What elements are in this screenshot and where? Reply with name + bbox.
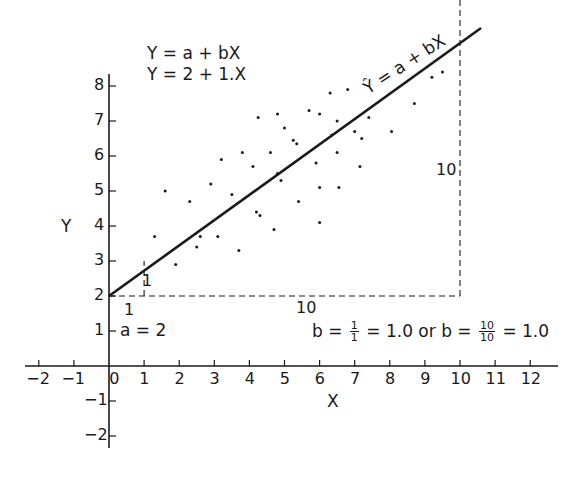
data-point <box>153 235 156 238</box>
data-point <box>174 263 177 266</box>
x-tick-label: 5 <box>280 371 290 387</box>
y-tick-label: 5 <box>94 182 104 198</box>
data-point <box>297 200 300 203</box>
scatter-points <box>153 71 444 267</box>
data-point <box>337 186 340 189</box>
large-rise-label: 10 <box>436 162 456 178</box>
data-point <box>199 235 202 238</box>
x-tick-label: 6 <box>315 371 325 387</box>
data-point <box>188 200 191 203</box>
x-tick-label: 10 <box>451 371 471 387</box>
y-tick-label: 6 <box>94 147 104 163</box>
x-axis-label: X <box>327 393 339 410</box>
y-tick-label: 3 <box>94 252 104 268</box>
x-tick-label: 11 <box>486 371 506 387</box>
data-point <box>358 165 361 168</box>
x-tick-label: 2 <box>174 371 184 387</box>
slope-fraction-1: 1 1 <box>350 320 359 343</box>
data-point <box>346 88 349 91</box>
x-tick-label: −2 <box>26 371 50 387</box>
data-point <box>164 190 167 193</box>
data-point <box>413 102 416 105</box>
intercept-label: a = 2 <box>120 322 166 339</box>
data-point <box>329 92 332 95</box>
data-point <box>292 139 295 142</box>
fraction-2-denominator: 10 <box>479 332 495 343</box>
fraction-1-denominator: 1 <box>350 332 359 343</box>
data-point <box>318 113 321 116</box>
y-tick-label: 8 <box>94 77 104 93</box>
y-tick-label: 2 <box>94 287 104 303</box>
data-point <box>220 158 223 161</box>
data-point <box>255 211 258 214</box>
x-tick-label: 0 <box>109 371 119 387</box>
data-point <box>360 137 363 140</box>
x-tick-label: 1 <box>139 371 149 387</box>
data-point <box>269 151 272 154</box>
x-tick-label: −1 <box>61 371 85 387</box>
data-point <box>257 116 260 119</box>
data-point <box>279 179 282 182</box>
data-point <box>367 116 370 119</box>
slope-middle: = 1.0 or b = <box>366 321 471 341</box>
data-point <box>195 246 198 249</box>
data-point <box>390 130 393 133</box>
data-point <box>315 162 318 165</box>
slope-formula: b = 1 1 = 1.0 or b = 10 10 = 1.0 <box>312 320 549 343</box>
data-point <box>209 183 212 186</box>
data-point <box>336 151 339 154</box>
equation-general: Y = a + bX <box>147 45 240 62</box>
data-point <box>251 165 254 168</box>
data-point <box>276 113 279 116</box>
data-point <box>295 142 298 145</box>
data-point <box>272 228 275 231</box>
data-point <box>258 214 261 217</box>
slope-fraction-2: 10 10 <box>479 320 495 343</box>
data-point <box>353 130 356 133</box>
data-point <box>441 71 444 74</box>
large-run-label: 10 <box>296 300 316 316</box>
data-point <box>318 221 321 224</box>
x-tick-label: 12 <box>521 371 541 387</box>
x-tick-label: 3 <box>210 371 220 387</box>
data-point <box>230 193 233 196</box>
small-rise-label: 1 <box>142 273 152 289</box>
y-tick-label: −1 <box>84 392 108 408</box>
y-tick-label: −2 <box>84 427 108 443</box>
x-tick-label: 4 <box>245 371 255 387</box>
equation-specific: Y = 2 + 1.X <box>147 66 246 83</box>
x-tick-label: 9 <box>420 371 430 387</box>
data-point <box>308 109 311 112</box>
data-point <box>216 235 219 238</box>
x-tick-label: 8 <box>385 371 395 387</box>
data-point <box>336 120 339 123</box>
y-axis-label: Y <box>61 218 71 235</box>
data-point <box>430 76 433 79</box>
slope-suffix: = 1.0 <box>502 321 549 341</box>
data-point <box>318 186 321 189</box>
data-point <box>241 151 244 154</box>
x-tick-label: 7 <box>350 371 360 387</box>
data-point <box>283 127 286 130</box>
y-tick-label: 1 <box>94 322 104 338</box>
data-point <box>237 249 240 252</box>
y-tick-label: 4 <box>94 217 104 233</box>
small-run-label: 1 <box>124 302 134 318</box>
y-tick-label: 7 <box>94 112 104 128</box>
slope-prefix: b = <box>312 321 342 341</box>
